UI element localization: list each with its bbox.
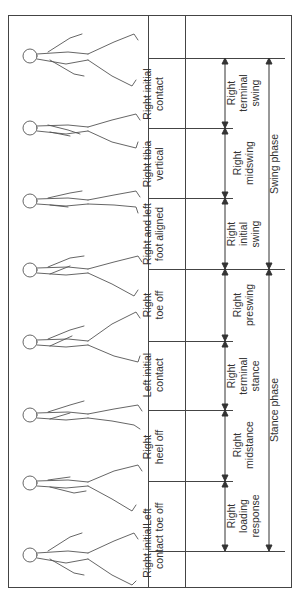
event-label-feet-aligned: Right and left foot aligned [141,199,165,269]
event-label-right-tibia-vertical: Right tibia vertical [141,129,165,199]
event-label-right-initial-contact-end: Right initial contact [141,59,165,129]
subphase-initial-swing: Right initial swing [225,204,261,264]
event-label-left-initial-contact: Left initial contact [141,340,165,410]
figure-caption-clipped [293,400,302,595]
event-label-left-toe-off: Left toe off [141,482,165,552]
event-label-right-heel-off: Right heel off [141,412,165,482]
phase-stance: Stance phase [268,370,280,450]
phase-swing: Swing phase [268,124,280,204]
subphase-midstance: Right midstance [231,415,255,475]
subphase-loading-response: Right loading response [225,486,261,546]
subphase-terminal-stance: Right terminal stance [225,346,261,406]
subphase-terminal-swing: Right terminal swing [225,63,261,123]
subphase-preswing: Right preswing [231,275,255,335]
event-label-right-toe-off: Right toe off [141,270,165,340]
subphase-midswing: Right midswing [231,133,255,193]
